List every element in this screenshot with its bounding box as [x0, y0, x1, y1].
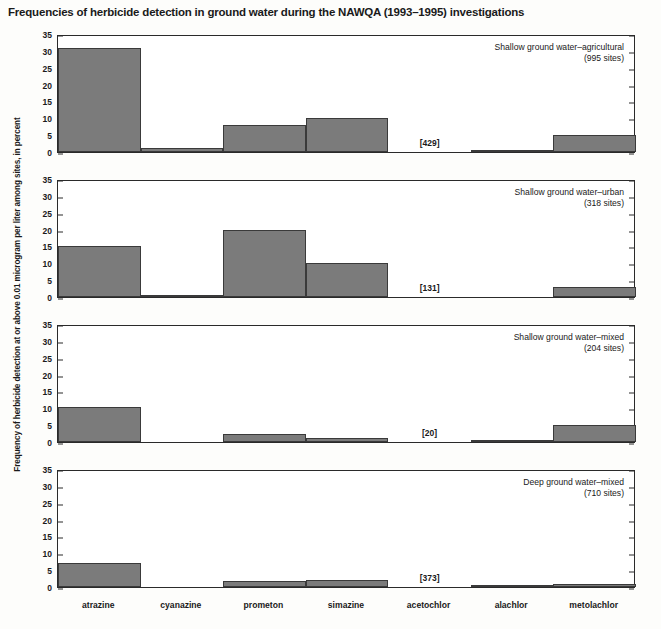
y-tick-label: 5	[47, 131, 57, 141]
y-tick-label: 30	[43, 192, 57, 202]
y-tick-mark-right	[629, 589, 634, 590]
y-tick-label: 10	[43, 404, 57, 414]
y-tick-label: 25	[43, 499, 57, 509]
bar-metolachlor	[553, 425, 636, 442]
y-tick-label: 25	[43, 354, 57, 364]
y-tick-label: 35	[43, 320, 57, 330]
y-tick-label: 35	[43, 465, 57, 475]
x-label-acetochlor: acetochlor	[407, 600, 450, 610]
plot-area: [20]Shallow ground water–mixed(204 sites…	[57, 325, 635, 443]
y-tick-label: 15	[43, 242, 57, 252]
panel-shallow-ground-water-agricultural: [429]Shallow ground water–agricultural(9…	[57, 35, 635, 153]
y-tick-mark-right	[629, 154, 634, 155]
panel-caption: Deep ground water–mixed(710 sites)	[523, 477, 624, 499]
bar-atrazine	[58, 48, 141, 153]
panel-shallow-ground-water-mixed: [20]Shallow ground water–mixed(204 sites…	[57, 325, 635, 443]
x-axis-category-labels: atrazinecyanazineprometonsimazineacetoch…	[57, 600, 635, 616]
bar-prometon	[223, 125, 306, 152]
y-tick-label: 0	[47, 438, 57, 448]
bar-prometon	[223, 434, 306, 442]
bar-cyanazine	[141, 295, 224, 297]
y-tick-label: 5	[47, 421, 57, 431]
bar-simazine	[306, 118, 389, 152]
bar-alachlor	[471, 440, 554, 442]
bar-alachlor	[471, 585, 554, 587]
y-tick-mark	[58, 444, 63, 445]
y-tick-mark	[58, 589, 63, 590]
figure-title: Frequencies of herbicide detection in gr…	[8, 6, 653, 18]
plot-area: [373]Deep ground water–mixed(710 sites)	[57, 470, 635, 588]
y-tick-mark-right	[629, 299, 634, 300]
figure-container: Frequencies of herbicide detection in gr…	[0, 0, 661, 629]
y-tick-label: 20	[43, 81, 57, 91]
y-tick-label: 25	[43, 209, 57, 219]
bar-atrazine	[58, 563, 141, 587]
panel-caption-line2: (710 sites)	[523, 488, 624, 499]
annotation-acetochlor: [20]	[422, 428, 437, 438]
panel-caption-line2: (318 sites)	[515, 198, 624, 209]
panel-caption-line2: (995 sites)	[495, 53, 624, 64]
bar-atrazine	[58, 246, 141, 297]
y-tick-label: 15	[43, 97, 57, 107]
y-tick-label: 35	[43, 30, 57, 40]
bar-metolachlor	[553, 135, 636, 152]
panel-caption-line1: Shallow ground water–mixed	[514, 332, 624, 343]
panel-caption-line1: Shallow ground water–agricultural	[495, 42, 624, 53]
y-tick-label: 10	[43, 114, 57, 124]
panel-caption: Shallow ground water–agricultural(995 si…	[495, 42, 624, 64]
y-tick-label: 30	[43, 47, 57, 57]
y-tick-label: 0	[47, 148, 57, 158]
y-axis-label: Frequency of herbicide detection at or a…	[13, 115, 22, 475]
x-label-simazine: simazine	[328, 600, 364, 610]
y-tick-label: 20	[43, 371, 57, 381]
bar-metolachlor	[553, 287, 636, 297]
y-tick-label: 20	[43, 226, 57, 236]
y-tick-mark-right	[629, 444, 634, 445]
annotation-acetochlor: [429]	[420, 138, 440, 148]
y-tick-label: 10	[43, 549, 57, 559]
y-tick-label: 15	[43, 387, 57, 397]
x-label-prometon: prometon	[244, 600, 284, 610]
bar-alachlor	[471, 150, 554, 152]
panel-caption: Shallow ground water–mixed(204 sites)	[514, 332, 624, 354]
bar-atrazine	[58, 407, 141, 442]
y-tick-label: 0	[47, 293, 57, 303]
y-tick-label: 35	[43, 175, 57, 185]
panel-shallow-ground-water-urban: [131]Shallow ground water–urban(318 site…	[57, 180, 635, 298]
bar-simazine	[306, 438, 389, 442]
panel-caption: Shallow ground water–urban(318 sites)	[515, 187, 624, 209]
bar-metolachlor	[553, 584, 636, 587]
y-tick-label: 25	[43, 64, 57, 74]
annotation-acetochlor: [131]	[420, 283, 440, 293]
bar-prometon	[223, 581, 306, 587]
y-tick-label: 30	[43, 482, 57, 492]
bar-prometon	[223, 230, 306, 297]
plot-area: [131]Shallow ground water–urban(318 site…	[57, 180, 635, 298]
y-tick-label: 10	[43, 259, 57, 269]
panel-caption-line2: (204 sites)	[514, 343, 624, 354]
y-tick-label: 5	[47, 566, 57, 576]
y-tick-mark	[58, 299, 63, 300]
plot-area: [429]Shallow ground water–agricultural(9…	[57, 35, 635, 153]
y-tick-label: 0	[47, 583, 57, 593]
y-tick-label: 30	[43, 337, 57, 347]
annotation-acetochlor: [373]	[420, 573, 440, 583]
y-tick-label: 5	[47, 276, 57, 286]
bar-simazine	[306, 263, 389, 297]
x-label-atrazine: atrazine	[82, 600, 114, 610]
y-tick-label: 20	[43, 516, 57, 526]
bar-cyanazine	[141, 148, 224, 152]
panel-deep-ground-water-mixed: [373]Deep ground water–mixed(710 sites)0…	[57, 470, 635, 588]
x-label-alachlor: alachlor	[495, 600, 528, 610]
x-label-cyanazine: cyanazine	[160, 600, 201, 610]
y-tick-mark	[58, 154, 63, 155]
bar-simazine	[306, 580, 389, 587]
panel-caption-line1: Shallow ground water–urban	[515, 187, 624, 198]
panel-caption-line1: Deep ground water–mixed	[523, 477, 624, 488]
y-tick-label: 15	[43, 532, 57, 542]
x-label-metolachlor: metolachlor	[569, 600, 618, 610]
